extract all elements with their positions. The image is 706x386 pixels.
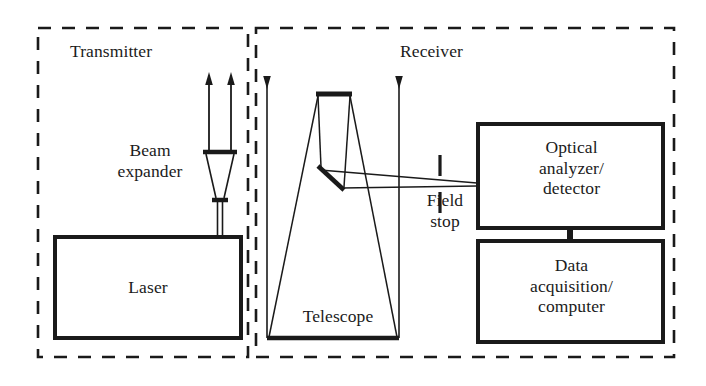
transmitted-beam-left-arrowhead	[205, 72, 213, 85]
beam-expander-cone-right	[224, 154, 234, 198]
field-stop-label: Field stop	[412, 190, 478, 231]
beam-expander-cone-left	[206, 154, 216, 198]
telescope-secondary-to-fold-ray-left	[318, 96, 321, 167]
telescope-secondary-to-fold-ray-right	[344, 96, 350, 187]
transmitter-section-label: Transmitter	[70, 41, 240, 62]
returned-beam-right-arrowhead	[395, 76, 403, 89]
fold-mirror-output-ray-lower	[342, 186, 477, 188]
data-acquisition-box-label: Data acquisition/ computer	[479, 255, 664, 317]
returned-beam-left-arrowhead	[263, 76, 271, 89]
laser-box-label: Laser	[55, 277, 241, 298]
telescope-label: Telescope	[282, 306, 394, 327]
receiver-section-label: Receiver	[400, 41, 570, 62]
beam-expander-label: Beam expander	[98, 140, 202, 181]
lidar-diagram: Transmitter Receiver Beam expander Laser…	[0, 0, 706, 386]
telescope-converging-ray-left	[269, 96, 318, 337]
telescope-converging-ray-right	[350, 96, 397, 337]
transmitted-beam-right-arrowhead	[227, 72, 235, 85]
optical-analyzer-box-label: Optical analyzer/ detector	[479, 137, 664, 199]
